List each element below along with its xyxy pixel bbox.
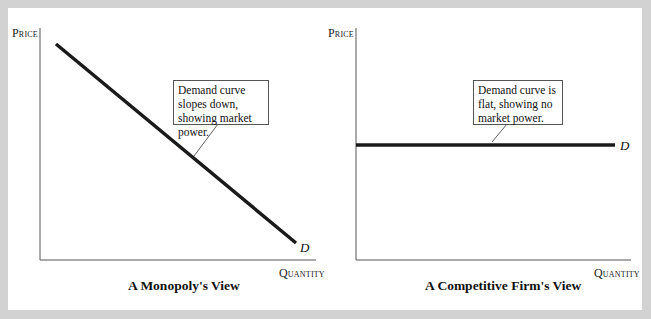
right-chart-caption: A Competitive Firm's View [425, 278, 565, 294]
right-annotation-leader [492, 124, 507, 142]
right-curve-label: D [620, 138, 629, 154]
left-x-axis-label: Quantity [279, 266, 325, 281]
right-x-axis-label: Quantity [594, 266, 640, 281]
left-chart-caption: A Monopoly's View [128, 278, 238, 294]
chart-graphics [0, 0, 651, 319]
right-annotation-box: Demand curve is flat, showing no market … [473, 80, 563, 125]
left-y-axis-label: Price [12, 26, 38, 41]
left-annotation-box: Demand curve slopes down, showing market… [173, 80, 269, 125]
left-curve-label: D [300, 240, 309, 256]
left-demand-curve [56, 44, 296, 243]
right-y-axis-label: Price [328, 26, 354, 41]
